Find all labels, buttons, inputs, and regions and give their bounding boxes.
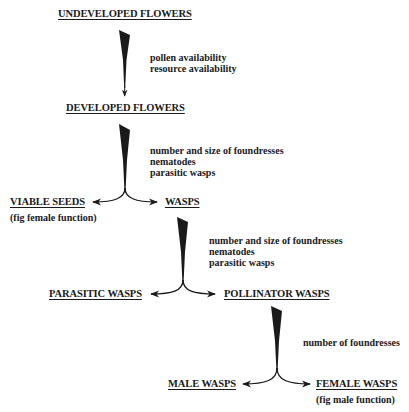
- node-undeveloped-flowers: UNDEVELOPED FLOWERS: [58, 8, 192, 19]
- factors-undeveloped-to-developed: pollen availability resource availabilit…: [150, 52, 237, 74]
- node-parasitic-wasps: PARASITIC WASPS: [49, 288, 142, 299]
- factors-developed-split: number and size of foundresses nematodes…: [150, 145, 284, 178]
- factor-foundresses: number and size of foundresses: [209, 235, 343, 246]
- arrow-developed-split: [93, 124, 157, 202]
- note-fig-female-function: (fig female function): [10, 212, 97, 223]
- factor-number-of-foundresses: number of foundresses: [303, 337, 400, 348]
- factors-pollinator-split: number of foundresses: [303, 337, 400, 348]
- node-female-wasps: FEMALE WASPS: [316, 378, 397, 389]
- node-male-wasps: MALE WASPS: [168, 378, 236, 389]
- node-developed-flowers: DEVELOPED FLOWERS: [66, 102, 185, 113]
- node-wasps: WASPS: [165, 196, 200, 207]
- node-pollinator-wasps: POLLINATOR WASPS: [224, 288, 329, 299]
- node-viable-seeds: VIABLE SEEDS: [10, 196, 85, 207]
- arrow-pollinator-split: [243, 306, 310, 384]
- note-fig-male-function: (fig male function): [316, 394, 395, 405]
- factor-parasitic-wasps: parasitic wasps: [209, 257, 343, 268]
- arrow-wasps-split: [151, 217, 215, 294]
- factor-parasitic-wasps: parasitic wasps: [150, 167, 284, 178]
- factor-resource-availability: resource availability: [150, 63, 237, 74]
- arrow-undeveloped-to-developed: [119, 30, 130, 96]
- factor-nematodes: nematodes: [209, 246, 343, 257]
- factors-wasps-split: number and size of foundresses nematodes…: [209, 235, 343, 268]
- factor-foundresses: number and size of foundresses: [150, 145, 284, 156]
- factor-nematodes: nematodes: [150, 156, 284, 167]
- factor-pollen-availability: pollen availability: [150, 52, 237, 63]
